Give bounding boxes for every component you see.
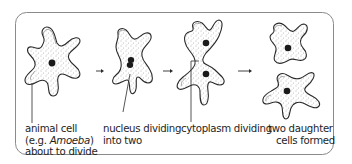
stage-3-line-1: cytoplasm dividing: [181, 123, 272, 135]
nucleus: [49, 60, 56, 67]
stage-3-label: cytoplasm dividing: [181, 123, 272, 135]
stage-1-line-1: animal cell: [25, 123, 98, 135]
nucleus-top: [203, 40, 210, 47]
organism-name: Amoeba: [50, 135, 90, 146]
stage-4-label: two daughter cells formed: [268, 123, 335, 146]
stage-2-line-1: nucleus dividing: [103, 123, 181, 135]
nucleus-bottom: [203, 71, 210, 78]
stage-2-label: nucleus dividing into two: [103, 123, 181, 146]
nucleus-dividing-bottom: [127, 62, 133, 68]
nucleus: [284, 88, 291, 95]
nucleus: [285, 45, 292, 52]
stage-1-line-3: about to divide: [25, 146, 98, 158]
nucleus-dividing-top: [128, 57, 134, 63]
stage-2-line-2: into two: [103, 135, 181, 147]
stage-1-line-2: (e.g. Amoeba): [25, 135, 98, 147]
stage-1-label: animal cell (e.g. Amoeba) about to divid…: [25, 123, 98, 158]
stage-4-line-2: cells formed: [268, 135, 335, 147]
stage-4-line-1: two daughter: [268, 123, 335, 135]
